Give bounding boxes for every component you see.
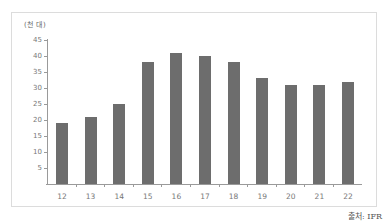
y-tick-label: 15 xyxy=(20,132,42,140)
x-tick xyxy=(276,184,277,187)
y-tick-label: 40 xyxy=(20,52,42,60)
x-tick-label: 12 xyxy=(48,192,76,201)
y-tick-label: 35 xyxy=(20,68,42,76)
y-tick xyxy=(44,88,47,89)
x-tick-label: 16 xyxy=(162,192,190,201)
bar-13 xyxy=(85,117,97,184)
bar-12 xyxy=(56,123,68,184)
unit-label: (천 대) xyxy=(24,19,46,29)
x-tick xyxy=(333,184,334,187)
x-tick-label: 20 xyxy=(277,192,305,201)
y-tick xyxy=(44,152,47,153)
x-tick-label: 18 xyxy=(220,192,248,201)
x-tick-label: 21 xyxy=(305,192,333,201)
x-tick xyxy=(133,184,134,187)
x-tick xyxy=(304,184,305,187)
y-tick xyxy=(44,120,47,121)
bar-19 xyxy=(256,78,268,184)
x-tick xyxy=(104,184,105,187)
x-tick-label: 19 xyxy=(248,192,276,201)
y-tick-label: 10 xyxy=(20,148,42,156)
x-tick-label: 13 xyxy=(77,192,105,201)
y-tick xyxy=(44,72,47,73)
bar-18 xyxy=(228,62,240,184)
x-tick-label: 15 xyxy=(134,192,162,201)
y-axis xyxy=(47,39,48,184)
x-tick xyxy=(247,184,248,187)
bar-16 xyxy=(170,53,182,184)
bar-14 xyxy=(113,104,125,184)
y-tick-label: 45 xyxy=(20,36,42,44)
x-tick xyxy=(190,184,191,187)
x-tick xyxy=(161,184,162,187)
y-tick-label: 30 xyxy=(20,84,42,92)
y-tick-label: 20 xyxy=(20,116,42,124)
bar-21 xyxy=(313,85,325,184)
x-tick-label: 17 xyxy=(191,192,219,201)
y-tick xyxy=(44,56,47,57)
bar-20 xyxy=(285,85,297,184)
x-tick-label: 22 xyxy=(334,192,362,201)
x-tick xyxy=(219,184,220,187)
y-tick-label: 5 xyxy=(20,164,42,172)
source-note: 출처: IFR xyxy=(348,210,382,221)
x-axis xyxy=(46,184,362,185)
bar-22 xyxy=(342,82,354,184)
y-tick xyxy=(44,168,47,169)
y-tick xyxy=(44,104,47,105)
x-tick xyxy=(76,184,77,187)
y-tick-label: 25 xyxy=(20,100,42,108)
bar-15 xyxy=(142,62,154,184)
bar-17 xyxy=(199,56,211,184)
y-tick xyxy=(44,136,47,137)
y-tick xyxy=(44,40,47,41)
x-tick-label: 14 xyxy=(105,192,133,201)
